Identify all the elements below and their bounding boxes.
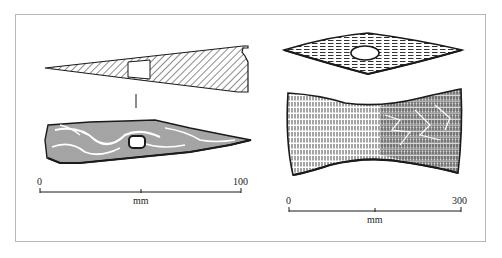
drawing-canvas [0, 0, 502, 258]
right-scale-start-label: 0 [286, 196, 291, 206]
left-scale-unit-label: mm [133, 196, 149, 206]
right-face-view [287, 89, 461, 175]
right-top-view [284, 33, 462, 74]
right-scale-bar [289, 207, 461, 212]
left-scale-start-label: 0 [37, 177, 42, 187]
left-scale-bar [40, 188, 241, 193]
left-side-view [45, 120, 251, 163]
right-scale-unit-label: mm [367, 215, 383, 225]
left-scale-end-label: 100 [233, 177, 248, 187]
right-scale-end-label: 300 [452, 196, 467, 206]
left-section-view [45, 46, 248, 108]
